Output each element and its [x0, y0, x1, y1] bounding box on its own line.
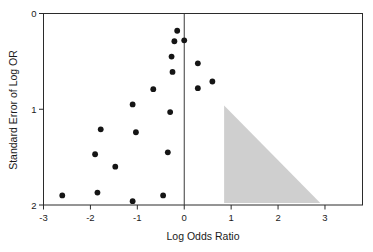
x-tick-label: 1	[228, 212, 233, 223]
data-point	[181, 37, 187, 43]
data-point	[209, 79, 215, 85]
data-point	[195, 85, 201, 91]
data-point	[169, 54, 175, 60]
data-point	[98, 126, 104, 132]
y-tick-label: 0	[31, 8, 36, 19]
data-point	[133, 129, 139, 135]
funnel-plot-figure: -3-2-10123 012 Log Odds Ratio Standard E…	[0, 0, 373, 252]
y-tick-label: 2	[31, 200, 36, 211]
data-point	[170, 69, 176, 75]
x-tick-label: 3	[322, 212, 327, 223]
y-tick-label: 1	[31, 104, 36, 115]
data-point	[95, 190, 101, 196]
data-point	[59, 193, 65, 199]
data-point	[150, 86, 156, 92]
x-tick-label: 0	[182, 212, 187, 223]
x-axis-title: Log Odds Ratio	[167, 230, 240, 242]
data-point	[92, 151, 98, 157]
data-point	[160, 193, 166, 199]
data-point	[171, 38, 177, 44]
data-point	[165, 149, 171, 155]
x-tick-label: -2	[86, 212, 94, 223]
data-point	[112, 164, 118, 170]
data-point	[130, 198, 136, 204]
data-point	[195, 60, 201, 66]
y-axis-title: Standard Error of Log OR	[7, 50, 19, 170]
x-tick-label: -3	[39, 212, 47, 223]
data-point	[130, 102, 136, 108]
x-tick-label: 2	[275, 212, 280, 223]
data-point	[167, 109, 173, 115]
data-point	[174, 28, 180, 34]
x-tick-label: -1	[133, 212, 141, 223]
